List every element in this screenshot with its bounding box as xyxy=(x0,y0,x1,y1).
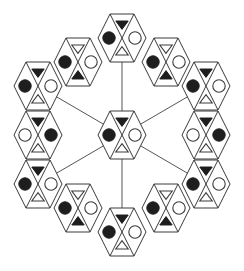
hexagon-tile-lower-left-diag xyxy=(54,184,102,232)
filled-circle-icon xyxy=(103,32,115,44)
filled-circle-icon xyxy=(19,80,31,92)
filled-circle-icon xyxy=(59,56,71,68)
hexagon-tile-bottom xyxy=(98,208,146,256)
hollow-circle-icon xyxy=(173,56,185,68)
hexagon-tile-upper-right-diag xyxy=(142,38,190,86)
filled-circle-icon xyxy=(103,226,115,238)
filled-circle-icon xyxy=(45,129,57,141)
hexagon-tile-left-lower xyxy=(14,160,62,208)
filled-circle-icon xyxy=(213,129,225,141)
filled-circle-icon xyxy=(147,56,159,68)
hexagon-tile-right-upper xyxy=(182,62,230,110)
hollow-circle-icon xyxy=(173,202,185,214)
hexagon-tile-upper-left-diag xyxy=(54,38,102,86)
hexagon-ring-diagram xyxy=(0,0,244,271)
hexagon-tile-left-upper xyxy=(14,62,62,110)
hollow-circle-icon xyxy=(129,32,141,44)
hollow-circle-icon xyxy=(45,178,57,190)
hollow-circle-icon xyxy=(187,129,199,141)
hexagon-tile-right-lower xyxy=(182,160,230,208)
hollow-circle-icon xyxy=(129,129,141,141)
hollow-circle-icon xyxy=(85,56,97,68)
hollow-circle-icon xyxy=(213,178,225,190)
diagram-canvas xyxy=(0,0,244,271)
hollow-circle-icon xyxy=(85,202,97,214)
filled-circle-icon xyxy=(59,202,71,214)
hexagon-tile-left-mid xyxy=(14,111,62,159)
hexagon-tile-top xyxy=(98,14,146,62)
hollow-circle-icon xyxy=(19,129,31,141)
hollow-circle-icon xyxy=(213,80,225,92)
hexagon-tile-right-mid xyxy=(182,111,230,159)
hollow-circle-icon xyxy=(129,226,141,238)
filled-circle-icon xyxy=(147,202,159,214)
hexagon-tile-lower-right-diag xyxy=(142,184,190,232)
hexagon-tile-center xyxy=(98,111,146,159)
hollow-circle-icon xyxy=(45,80,57,92)
hexagons xyxy=(14,14,230,256)
filled-circle-icon xyxy=(187,80,199,92)
filled-circle-icon xyxy=(19,178,31,190)
filled-circle-icon xyxy=(103,129,115,141)
filled-circle-icon xyxy=(187,178,199,190)
